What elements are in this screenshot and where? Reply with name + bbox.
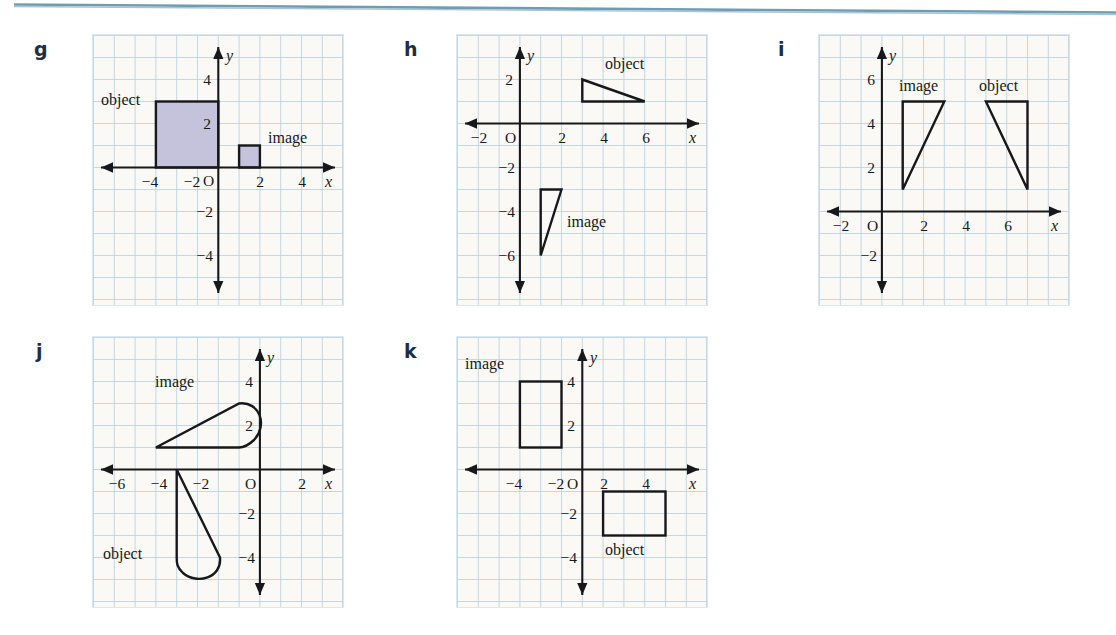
x-tick-j-3: 2 [298, 475, 306, 492]
x-tick-h-0: −2 [471, 129, 488, 146]
x-tick-g-0: −4 [142, 173, 159, 190]
x-tick-j-1: −4 [151, 475, 168, 492]
origin-label-k: O [567, 475, 578, 492]
x-tick-i-1: 2 [920, 217, 928, 234]
grid-i [819, 35, 1069, 305]
x-axis-label-j: x [324, 475, 332, 492]
x-tick-k-3: 4 [642, 475, 650, 492]
object-shape-g [156, 102, 218, 168]
axes-g [101, 47, 335, 293]
object-label-g: object [101, 91, 141, 109]
panel-letter-g: g [34, 40, 48, 59]
y-tick-k-0: 4 [567, 373, 575, 390]
axes-k [465, 349, 699, 595]
image-label-k: image [465, 355, 504, 373]
object-label-h: object [605, 55, 645, 73]
coordinate-plane-i: x y O −2 2 4 6 6 4 2 −2 image object [819, 35, 1069, 305]
plot-area-k: x y O −4 −2 2 4 4 2 −2 −4 image object [456, 336, 708, 608]
x-axis-label-i: x [1050, 217, 1058, 234]
x-tick-k-0: −4 [506, 475, 523, 492]
image-label-h: image [567, 213, 606, 231]
scan-rule-svg [0, 2, 1116, 18]
x-tick-j-2: −2 [193, 475, 210, 492]
x-tick-k-2: 2 [600, 475, 608, 492]
panel-letter-h: h [404, 40, 418, 59]
coordinate-plane-k: x y O −4 −2 2 4 4 2 −2 −4 image object [457, 337, 707, 607]
plot-area-j: x y O −6 −4 −2 2 4 2 −2 −4 image object [92, 336, 344, 608]
x-axis-label-k: x [688, 475, 696, 492]
image-shape-h [541, 190, 562, 256]
grid-h [457, 35, 707, 305]
y-tick-h-0: 2 [505, 71, 513, 88]
x-tick-j-0: −6 [109, 475, 126, 492]
scan-rule-line [14, 5, 1116, 13]
y-axis-label-i: y [887, 47, 897, 65]
image-label-j: image [155, 373, 194, 391]
object-shape-h [582, 80, 644, 102]
x-tick-i-2: 4 [962, 217, 970, 234]
y-tick-j-0: 4 [245, 373, 253, 390]
y-axis-label-g: y [224, 47, 234, 65]
coordinate-plane-h: x y O −2 2 4 6 2 −2 −4 −6 object image [457, 35, 707, 305]
y-tick-i-2: 2 [867, 159, 875, 176]
x-tick-k-1: −2 [548, 475, 565, 492]
x-tick-g-2: 2 [256, 173, 264, 190]
image-label-g: image [268, 129, 307, 147]
y-axis-label-h: y [525, 47, 535, 65]
y-tick-k-1: 2 [567, 417, 575, 434]
origin-label-j: O [245, 475, 256, 492]
y-tick-k-2: −2 [561, 505, 578, 522]
y-tick-g-0: 4 [203, 71, 211, 88]
y-axis-label-k: y [588, 349, 598, 367]
y-tick-i-1: 4 [867, 115, 875, 132]
y-tick-h-2: −4 [499, 203, 516, 220]
y-tick-h-3: −6 [499, 247, 516, 264]
x-tick-g-3: 4 [298, 173, 306, 190]
object-label-i: object [979, 77, 1019, 95]
coordinate-plane-j: x y O −6 −4 −2 2 4 2 −2 −4 image object [93, 337, 343, 607]
origin-label-i: O [867, 217, 878, 234]
x-tick-h-2: 4 [600, 129, 608, 146]
x-axis-label-g: x [324, 173, 332, 190]
image-shape-g [239, 146, 260, 168]
x-tick-h-1: 2 [558, 129, 566, 146]
x-tick-g-1: −2 [184, 173, 201, 190]
y-tick-j-3: −4 [239, 549, 256, 566]
y-tick-i-3: −2 [861, 247, 878, 264]
coordinate-plane-g: x y O −4 −2 2 4 4 2 −2 −4 object image [93, 35, 343, 305]
panel-letter-i: i [778, 40, 785, 59]
y-tick-j-1: 2 [245, 417, 253, 434]
x-tick-i-0: −2 [833, 217, 850, 234]
plot-area-h: x y O −2 2 4 6 2 −2 −4 −6 object image [456, 34, 708, 306]
image-label-i: image [899, 77, 938, 95]
plot-area-i: x y O −2 2 4 6 6 4 2 −2 image object [818, 34, 1070, 306]
y-tick-g-3: −4 [197, 247, 214, 264]
page-scan-rule [0, 2, 1116, 18]
object-label-k: object [605, 541, 645, 559]
origin-label-h: O [505, 129, 516, 146]
plot-area-g: x y O −4 −2 2 4 4 2 −2 −4 object image [92, 34, 344, 306]
x-axis-label-h: x [688, 129, 696, 146]
y-tick-h-1: −2 [499, 159, 516, 176]
panel-letter-k: k [404, 342, 417, 361]
y-tick-i-0: 6 [867, 71, 875, 88]
y-axis-label-j: y [265, 349, 275, 367]
y-tick-g-1: 2 [203, 115, 211, 132]
object-label-j: object [103, 545, 143, 563]
origin-label-g: O [203, 172, 214, 189]
y-tick-j-2: −2 [239, 505, 256, 522]
x-tick-i-3: 6 [1004, 217, 1012, 234]
x-tick-h-3: 6 [642, 129, 650, 146]
y-tick-k-3: −4 [561, 549, 578, 566]
panel-letter-j: j [36, 342, 43, 361]
y-tick-g-2: −2 [197, 203, 214, 220]
